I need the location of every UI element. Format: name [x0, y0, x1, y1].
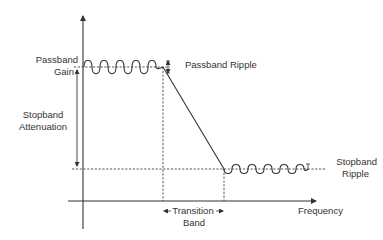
- frequency-axis-label: Frequency: [298, 205, 343, 216]
- passband-ripple-label: Passband Ripple: [185, 59, 257, 70]
- transition-band-label-2: Band: [183, 217, 205, 228]
- stopband-attenuation-label-2: Attenuation: [19, 121, 67, 132]
- stopband-ripple-label-2: Ripple: [342, 168, 369, 179]
- stopband-attenuation-label: Stopband: [23, 109, 64, 120]
- transition-band-label: Transition: [172, 205, 213, 216]
- stopband-ripple-label: Stopband: [336, 156, 377, 167]
- passband-gain-label: Passband: [36, 54, 78, 65]
- passband-gain-label-2: Gain: [54, 66, 74, 77]
- transition-slope: [163, 67, 224, 169]
- filter-response-diagram: Passband Gain Passband Ripple Stopband A…: [0, 0, 383, 240]
